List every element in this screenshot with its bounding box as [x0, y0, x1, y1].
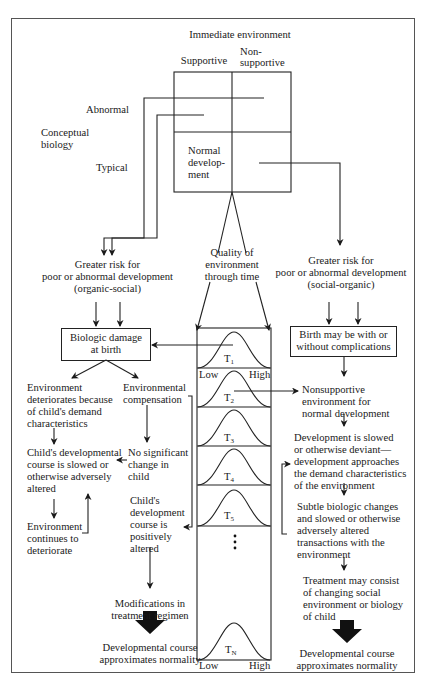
- env-compensation-2: compensation: [123, 394, 182, 406]
- biologic-damage-1: Biologic damage: [62, 332, 150, 344]
- treatment-1: Treatment may consist: [303, 575, 399, 587]
- right-risk-2: poor or abnormal development: [266, 267, 416, 279]
- treatment-2: of changing social: [303, 587, 381, 599]
- birth-complications-box: Birth may be with or without complicatio…: [290, 326, 397, 357]
- time-label-t4: T4: [224, 471, 234, 486]
- time-label-t1: T1: [224, 353, 234, 368]
- env-continues-1: Environment: [27, 521, 82, 533]
- dev-slowed-3: development approaches: [294, 456, 399, 468]
- child-slowed-1: Child's developmental: [27, 447, 122, 459]
- subtle-changes-4: transactions with the: [297, 537, 385, 549]
- bold-arrow-right-icon: [332, 620, 362, 643]
- env-compensation-1: Environmental: [123, 382, 186, 394]
- cell-normal-development-1: Normal: [188, 145, 220, 157]
- time-label-t5: T5: [224, 510, 234, 525]
- positively-altered-5: altered: [130, 543, 159, 555]
- birth-complications-2: without complications: [291, 341, 396, 353]
- left-outcome-2: approximates normality: [85, 654, 215, 666]
- row-label-typical: Typical: [96, 162, 128, 174]
- subtle-changes-3: adversely altered: [297, 525, 369, 537]
- time-label-tn: TN: [225, 644, 237, 659]
- subtle-changes-1: Subtle biologic changes: [297, 501, 398, 513]
- biologic-damage-2: at birth: [62, 344, 150, 356]
- modifications-2: treatment regimen: [100, 610, 200, 622]
- header-title: Immediate environment: [165, 29, 315, 41]
- env-deteriorates-1: Environment: [27, 382, 82, 394]
- dev-slowed-2: or otherwise deviant—: [294, 444, 391, 456]
- env-deteriorates-2: deteriorates because: [27, 394, 113, 406]
- subtle-changes-5: environment: [297, 549, 351, 561]
- axis-label-conceptual: Conceptual: [41, 127, 89, 139]
- quality-label-3: through time: [197, 271, 267, 283]
- positively-altered-4: positively: [130, 531, 172, 543]
- child-slowed-2: course is slowed or: [27, 459, 109, 471]
- quality-label-2: environment: [197, 259, 267, 271]
- modifications-1: Modifications in: [100, 598, 200, 610]
- birth-complications-1: Birth may be with or: [291, 329, 396, 341]
- positively-altered-1: Child's: [130, 495, 160, 507]
- treatment-3: environment or biology: [303, 599, 403, 611]
- axis-high-bottom: High: [249, 660, 270, 672]
- right-outcome-1: Developmental course: [282, 648, 412, 660]
- column-label-nonsupportive-2: supportive: [240, 57, 285, 69]
- nonsupportive-1: Nonsupportive: [302, 384, 365, 396]
- nonsupportive-2: environment for: [302, 396, 371, 408]
- axis-label-biology: biology: [41, 139, 73, 151]
- axis-high-top: High: [249, 369, 270, 381]
- time-label-t2: T2: [224, 392, 234, 407]
- right-risk-3: (social-organic): [266, 279, 416, 291]
- env-continues-3: deteriorate: [27, 545, 72, 557]
- left-risk-2: poor or abnormal development: [30, 271, 185, 283]
- nonsupportive-3: normal development: [302, 408, 389, 420]
- positively-altered-3: course is: [130, 519, 167, 531]
- positively-altered-2: development: [130, 507, 185, 519]
- quality-label-1: Quality of: [197, 247, 267, 259]
- transactional-model-figure: Immediate environment Supportive Non- su…: [0, 0, 428, 688]
- no-change-1: No significant: [128, 447, 188, 459]
- subtle-changes-2: and slowed or otherwise: [297, 513, 400, 525]
- cell-normal-development-2: develop-: [188, 157, 225, 169]
- axis-low-top: Low: [199, 369, 218, 381]
- dev-slowed-5: of the environment: [294, 480, 375, 492]
- left-risk-1: Greater risk for: [30, 259, 185, 271]
- time-label-t3: T3: [224, 432, 234, 447]
- column-label-supportive: Supportive: [176, 55, 232, 67]
- dev-slowed-1: Development is slowed: [294, 432, 393, 444]
- right-outcome-2: approximates normality: [282, 660, 412, 672]
- child-slowed-3: otherwise adversely: [27, 471, 111, 483]
- env-continues-2: continues to: [27, 533, 79, 545]
- cell-normal-development-3: ment: [188, 169, 209, 181]
- env-deteriorates-4: characteristics: [27, 418, 88, 430]
- no-change-3: child: [128, 471, 149, 483]
- env-deteriorates-3: of child's demand: [27, 406, 102, 418]
- treatment-4: of child: [303, 611, 336, 623]
- no-change-2: change in: [128, 459, 169, 471]
- right-risk-1: Greater risk for: [266, 255, 416, 267]
- biologic-damage-box: Biologic damage at birth: [61, 328, 151, 361]
- left-risk-3: (organic-social): [30, 283, 185, 295]
- child-slowed-4: altered: [27, 483, 56, 495]
- row-label-abnormal: Abnormal: [86, 104, 129, 116]
- dev-slowed-4: the demand characteristics: [294, 468, 406, 480]
- left-outcome-1: Developmental course: [85, 642, 215, 654]
